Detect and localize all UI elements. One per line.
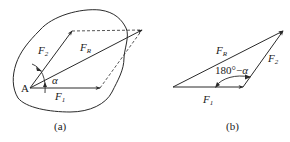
dashed-line-f2-to-fr (72, 30, 142, 31)
vector-fr-b (173, 31, 283, 87)
arc-arrow-bottom-icon (43, 82, 47, 87)
caption-b: (b) (226, 120, 239, 133)
angle-180-minus-alpha-label: 180°−α (215, 64, 248, 76)
body-outline (13, 10, 127, 112)
angle-alpha-label-a: α (52, 74, 58, 86)
vector-fr-a (30, 30, 142, 88)
label-f2-b: F2 (267, 52, 279, 66)
dashed-line-f1-to-fr (100, 30, 142, 88)
arc-arrow-top-icon (36, 67, 42, 71)
label-fr-a: FR (79, 41, 92, 55)
label-f1-a: F1 (54, 90, 65, 104)
panel-b: FR F2 180°−α F1 (b) (173, 31, 283, 133)
caption-a: (a) (54, 120, 67, 133)
label-fr-b: FR (215, 44, 228, 58)
force-addition-figure: A F2 FR α F1 (a) FR F2 180°−α F1 (b) (0, 0, 290, 142)
point-a-label: A (21, 82, 29, 94)
angle-arc-a (32, 64, 45, 93)
label-f1-b: F1 (202, 93, 213, 107)
label-f2-a: F2 (37, 44, 49, 58)
panel-a: A F2 FR α F1 (a) (13, 10, 142, 133)
vector-f2-a (30, 31, 72, 88)
